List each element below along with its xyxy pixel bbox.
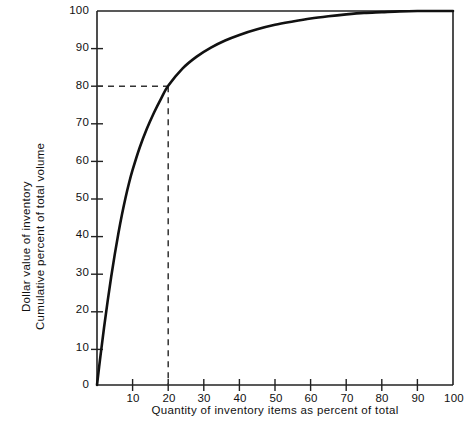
plot-area (0, 0, 469, 430)
axis-frame (97, 11, 453, 385)
pareto-inventory-chart: Dollar value of inventory Cumulative per… (0, 0, 469, 430)
cumulative-value-curve (97, 11, 453, 385)
reference-lines (97, 86, 168, 385)
